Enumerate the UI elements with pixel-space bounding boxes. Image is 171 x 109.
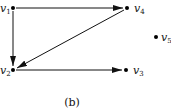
node-v4 (125, 6, 129, 10)
graph-diagram: v1 v2 v3 v4 v5 (b) (0, 0, 171, 109)
label-v5: v5 (161, 31, 171, 45)
label-v2: v2 (0, 64, 11, 78)
edge-v4-v2 (17, 10, 124, 68)
label-v4: v4 (134, 2, 145, 16)
node-v5 (154, 35, 158, 39)
node-v1 (11, 6, 15, 10)
label-v3: v3 (133, 64, 144, 78)
node-v2 (11, 68, 15, 72)
node-v3 (124, 68, 128, 72)
label-v1: v1 (0, 2, 11, 16)
figure-caption: (b) (64, 96, 80, 109)
